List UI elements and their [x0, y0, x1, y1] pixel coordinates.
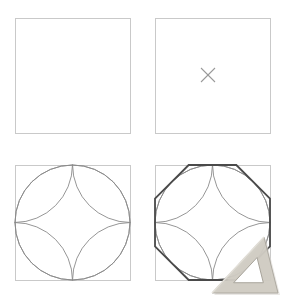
petal-arc-2: [213, 165, 271, 223]
petal-arc-1: [15, 165, 73, 223]
sweep-arc-4: [15, 165, 130, 223]
square-outline: [16, 19, 131, 134]
petal-arc-3: [73, 223, 131, 281]
figure-root: [0, 0, 284, 306]
sweep-arc-1: [15, 165, 73, 280]
panels-layer: [15, 19, 280, 296]
panel-2: [156, 19, 271, 134]
sweep-arc-3: [15, 223, 130, 281]
sweep-arc-1: [155, 165, 213, 280]
construction-figure: [0, 0, 284, 306]
petal-arc-1: [155, 165, 213, 223]
petal-arc-2: [73, 165, 131, 223]
sweep-arc-4: [155, 165, 270, 223]
sweep-arc-2: [73, 165, 131, 280]
ruler-body: [212, 237, 278, 293]
petal-arc-4: [15, 223, 73, 281]
petal-arc-4: [155, 223, 213, 281]
panel-4: [155, 165, 280, 295]
panel-1: [16, 19, 131, 134]
panel-3: [15, 165, 131, 281]
square-outline: [156, 19, 271, 134]
